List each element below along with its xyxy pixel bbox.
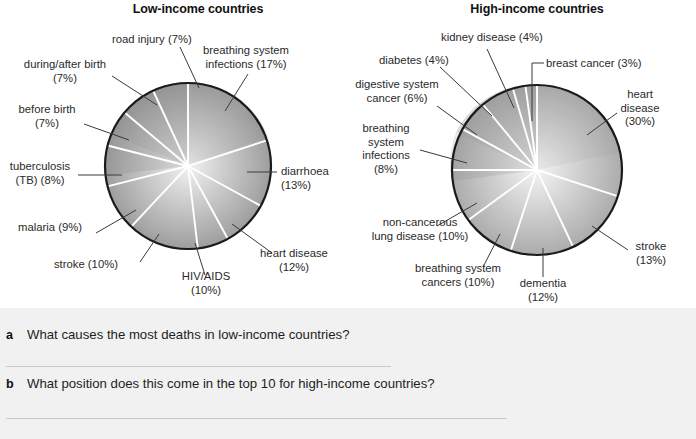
- label-low-during-after-birth: during/after birth (7%): [15, 58, 115, 85]
- label-low-tuberculosis: tuberculosis (TB) (8%): [2, 160, 78, 187]
- charts-region: Low-income countries High-income countri…: [0, 0, 696, 308]
- question-panel: a What causes the most deaths in low-inc…: [0, 308, 696, 439]
- label-high-dementia: dementia (12%): [506, 277, 580, 304]
- label-low-before-birth: before birth (7%): [6, 103, 88, 130]
- label-low-breathing-system-infections: breathing system infections (17%): [186, 44, 306, 71]
- label-high-heart-disease: heart disease (30%): [608, 88, 672, 129]
- label-high-non-cancerous-lung-disease: non-cancerous lung disease (10%): [357, 216, 483, 243]
- label-low-malaria: malaria (9%): [0, 221, 82, 235]
- answer-rule-b[interactable]: [6, 418, 507, 419]
- answer-rule-a[interactable]: [6, 366, 391, 367]
- label-low-hiv-aids: HIV/AIDS (10%): [170, 270, 242, 297]
- question-letter-a: a: [6, 328, 13, 342]
- label-high-kidney-disease: kidney disease (4%): [441, 31, 561, 45]
- question-letter-b: b: [6, 377, 14, 391]
- label-high-diabetes: diabetes (4%): [379, 54, 459, 68]
- label-high-breathing-system-cancers: breathing system cancers (10%): [399, 262, 517, 289]
- question-text-b: What position does this come in the top …: [27, 376, 435, 391]
- label-low-diarrhoea: diarrhoea (13%): [281, 165, 351, 192]
- label-low-stroke: stroke (10%): [26, 258, 118, 272]
- label-high-breathing-system-infections: breathing system infections (8%): [353, 122, 419, 176]
- label-low-road-injury: road injury (7%): [112, 33, 222, 47]
- label-high-breast-cancer: breast cancer (3%): [546, 57, 662, 71]
- question-text-a: What causes the most deaths in low-incom…: [27, 327, 350, 342]
- label-high-digestive-system-cancer: digestive system cancer (6%): [352, 78, 442, 105]
- label-high-stroke: stroke (13%): [620, 240, 682, 267]
- label-low-heart-disease: heart disease (12%): [246, 247, 342, 274]
